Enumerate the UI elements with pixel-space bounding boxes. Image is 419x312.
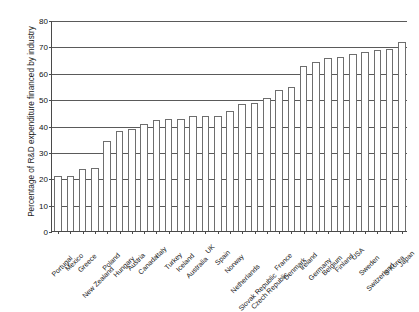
x-axis-tick-mark	[95, 231, 96, 234]
y-axis-tick-label: 40	[39, 122, 48, 131]
y-axis-tick-label: 20	[39, 175, 48, 184]
bar-spain	[214, 116, 222, 231]
bar-usa	[349, 54, 357, 231]
x-axis-tick-mark	[169, 231, 170, 234]
x-axis-tick-mark	[205, 231, 206, 234]
bar-hungary	[116, 131, 124, 231]
bar-finland	[337, 57, 345, 231]
bar-iceland	[177, 119, 185, 231]
x-axis-tick-mark	[279, 231, 280, 234]
x-axis-tick-mark	[267, 231, 268, 234]
x-axis-tick-mark	[120, 231, 121, 234]
bar-canada	[140, 124, 148, 231]
x-axis-tick-mark	[353, 231, 354, 234]
bar-italy	[153, 120, 161, 231]
x-axis-tick-mark	[316, 231, 317, 234]
bar-norway	[226, 111, 234, 231]
y-axis-tick-label: 80	[39, 17, 48, 26]
bar-mexico	[67, 176, 75, 231]
y-axis-title: Percentage of R&D expenditure financed b…	[27, 12, 36, 232]
bar-ireland	[300, 66, 308, 231]
x-axis-tick-mark	[83, 231, 84, 234]
x-axis-label: Norway	[240, 236, 262, 258]
bar-france	[275, 90, 283, 231]
x-axis-tick-mark	[181, 231, 182, 234]
y-axis-tick-label: 30	[39, 148, 48, 157]
y-axis-tick-label: 10	[39, 201, 48, 210]
x-axis-tick-mark	[230, 231, 231, 234]
bar-turkey	[165, 119, 173, 231]
x-axis-tick-mark	[58, 231, 59, 234]
bar-sweden	[361, 52, 369, 231]
x-axis-tick-mark	[291, 231, 292, 234]
x-axis-tick-mark	[402, 231, 403, 234]
bar-portugal	[54, 176, 62, 231]
bars-group	[52, 21, 407, 231]
x-axis-tick-mark	[390, 231, 391, 234]
x-axis-tick-mark	[340, 231, 341, 234]
plot-area: 01020304050607080 PortugalMexicoGreeceNe…	[51, 21, 407, 232]
x-axis-tick-mark	[255, 231, 256, 234]
y-axis-tick-label: 0	[44, 228, 48, 237]
bar-austria	[128, 129, 136, 231]
x-axis-tick-mark	[144, 231, 145, 234]
bar-belgium	[324, 58, 332, 231]
x-axis-tick-mark	[218, 231, 219, 234]
bar-denmark	[288, 87, 296, 231]
bar-japan	[398, 42, 406, 231]
x-axis-tick-mark	[377, 231, 378, 234]
x-axis-tick-mark	[107, 231, 108, 234]
bar-new-zealand	[91, 168, 99, 231]
x-axis-tick-mark	[304, 231, 305, 234]
x-axis-tick-mark	[70, 231, 71, 234]
x-axis-tick-mark	[242, 231, 243, 234]
y-axis-tick-label: 50	[39, 96, 48, 105]
bar-slovak-republic	[251, 103, 259, 231]
y-axis-tick-label: 70	[39, 43, 48, 52]
bar-greece	[79, 169, 87, 231]
bar-czech-republic	[263, 98, 271, 231]
x-axis-label: Italy	[163, 236, 177, 250]
bar-uk	[202, 116, 210, 231]
x-axis-tick-mark	[365, 231, 366, 234]
x-axis-tick-mark	[328, 231, 329, 234]
y-axis-tick-mark	[49, 232, 52, 233]
bar-poland	[103, 141, 111, 231]
x-axis-tick-mark	[132, 231, 133, 234]
bar-s-korea	[386, 49, 394, 231]
y-axis-tick-label: 60	[39, 69, 48, 78]
bar-netherlands	[238, 104, 246, 231]
bar-germany	[312, 62, 320, 231]
x-axis-tick-mark	[156, 231, 157, 234]
bar-switzerland	[374, 50, 382, 231]
bar-australia	[189, 116, 197, 231]
x-axis-tick-mark	[193, 231, 194, 234]
